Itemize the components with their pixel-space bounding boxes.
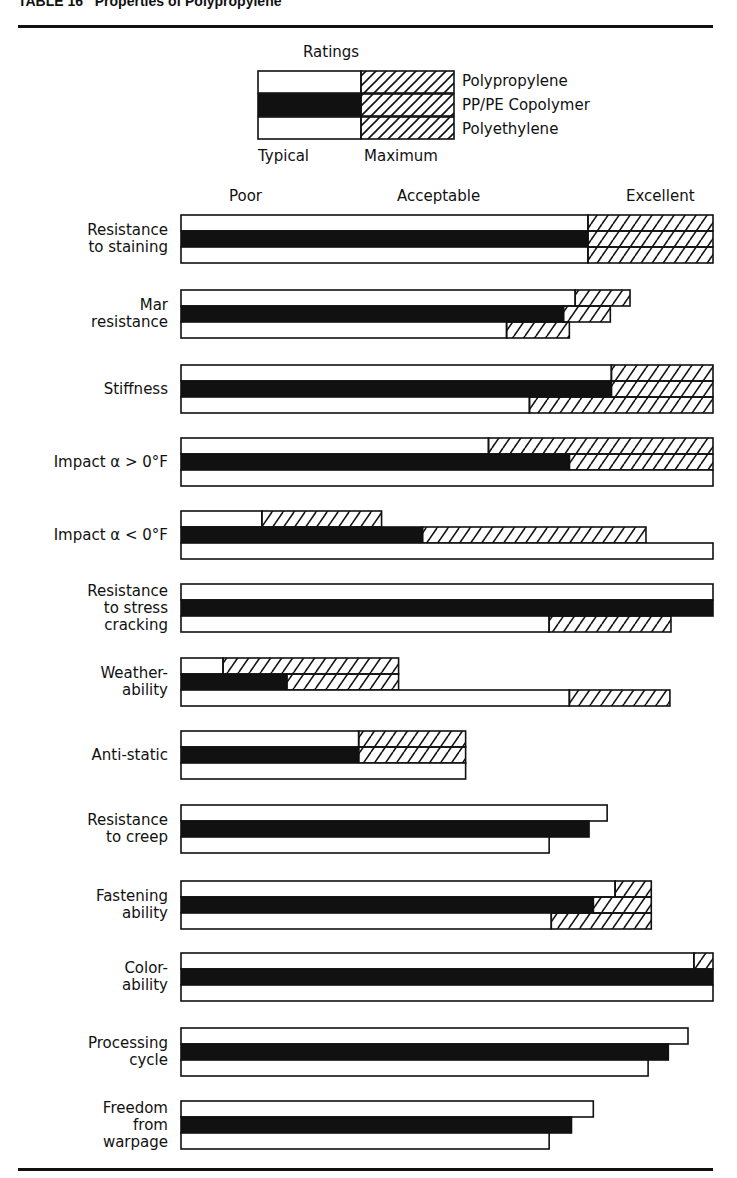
maximum-bar bbox=[611, 381, 713, 397]
maximum-bar bbox=[569, 454, 713, 470]
category-bar-group bbox=[181, 731, 466, 779]
typical-bar bbox=[181, 897, 593, 913]
maximum-bar bbox=[549, 616, 671, 632]
maximum-bar bbox=[569, 690, 670, 706]
typical-bar bbox=[181, 731, 359, 747]
maximum-bar bbox=[423, 527, 646, 543]
category-bar-group bbox=[181, 215, 713, 263]
category-bar-group bbox=[181, 1028, 688, 1076]
typical-bar bbox=[181, 690, 569, 706]
typical-bar bbox=[181, 290, 575, 306]
typical-bar bbox=[181, 913, 551, 929]
maximum-bar bbox=[529, 397, 713, 413]
typical-bar bbox=[181, 215, 588, 231]
typical-bar bbox=[181, 805, 607, 821]
typical-bar bbox=[181, 969, 713, 985]
maximum-bar bbox=[359, 747, 466, 763]
typical-bar bbox=[181, 397, 529, 413]
category-bar-group bbox=[181, 953, 713, 1001]
maximum-bar bbox=[507, 322, 570, 338]
maximum-bar bbox=[588, 215, 713, 231]
typical-bar bbox=[181, 616, 549, 632]
maximum-bar bbox=[588, 231, 713, 247]
typical-bar bbox=[181, 322, 507, 338]
typical-bar bbox=[181, 470, 713, 486]
maximum-bar bbox=[611, 365, 713, 381]
typical-bar bbox=[181, 985, 713, 1001]
maximum-bar bbox=[287, 674, 399, 690]
typical-bar bbox=[181, 543, 713, 559]
typical-bar bbox=[181, 1133, 549, 1149]
maximum-bar bbox=[694, 953, 713, 969]
typical-bar bbox=[181, 365, 611, 381]
typical-bar bbox=[181, 1044, 668, 1060]
typical-bar bbox=[181, 306, 564, 322]
typical-bar bbox=[181, 837, 549, 853]
typical-bar bbox=[181, 1060, 648, 1076]
maximum-bar bbox=[564, 306, 611, 322]
category-bar-group bbox=[181, 805, 607, 853]
typical-bar bbox=[181, 658, 223, 674]
typical-bar bbox=[181, 1117, 571, 1133]
typical-bar bbox=[181, 674, 287, 690]
maximum-bar bbox=[488, 438, 713, 454]
category-bar-group bbox=[181, 365, 713, 413]
category-bar-group bbox=[181, 438, 713, 486]
typical-bar bbox=[181, 881, 615, 897]
typical-bar bbox=[181, 247, 588, 263]
typical-bar bbox=[181, 454, 569, 470]
category-bar-group bbox=[181, 511, 713, 559]
typical-bar bbox=[181, 584, 713, 600]
typical-bar bbox=[181, 953, 694, 969]
typical-bar bbox=[181, 381, 611, 397]
category-bar-group bbox=[181, 290, 630, 338]
maximum-bar bbox=[551, 913, 651, 929]
typical-bar bbox=[181, 1101, 593, 1117]
category-bar-group bbox=[181, 881, 651, 929]
maximum-bar bbox=[223, 658, 399, 674]
typical-bar bbox=[181, 1028, 688, 1044]
typical-bar bbox=[181, 231, 588, 247]
typical-bar bbox=[181, 747, 359, 763]
maximum-bar bbox=[593, 897, 651, 913]
bottom-rule bbox=[18, 1168, 713, 1171]
maximum-bar bbox=[359, 731, 466, 747]
maximum-bar bbox=[615, 881, 651, 897]
category-bar-group bbox=[181, 1101, 593, 1149]
category-bar-group bbox=[181, 584, 713, 632]
typical-bar bbox=[181, 438, 488, 454]
category-bar-group bbox=[181, 658, 670, 706]
typical-bar bbox=[181, 527, 423, 543]
maximum-bar bbox=[588, 247, 713, 263]
typical-bar bbox=[181, 763, 466, 779]
typical-bar bbox=[181, 600, 713, 616]
maximum-bar bbox=[262, 511, 382, 527]
typical-bar bbox=[181, 511, 262, 527]
rating-bar-chart bbox=[0, 0, 737, 1178]
maximum-bar bbox=[575, 290, 630, 306]
typical-bar bbox=[181, 821, 589, 837]
